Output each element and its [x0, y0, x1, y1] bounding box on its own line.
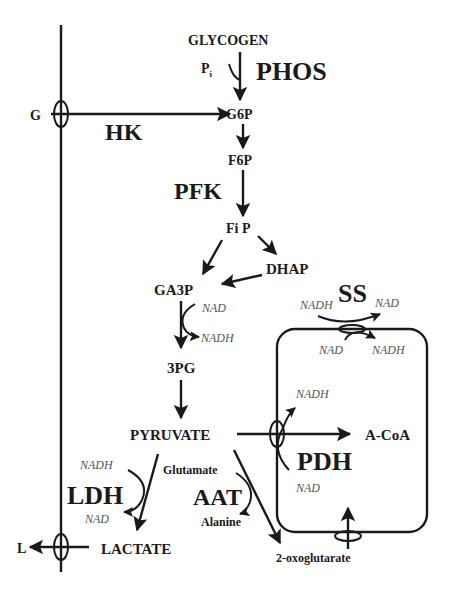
ldh-nadh-arc — [124, 470, 144, 512]
metabolite-g6p: G6P — [226, 107, 253, 122]
metabolite-fip: Fi P — [226, 221, 251, 236]
enzyme-aat: AAT — [193, 484, 242, 510]
cofactor-gapdh-nadh: NADH — [200, 331, 235, 345]
metabolite-2-oxoglutarate: 2-oxoglutarate — [276, 551, 351, 565]
gapdh-nad-arc — [182, 304, 199, 337]
metabolic-pathway-diagram: G HK GLYCOGEN Pi PHOS G6P F6P PFK Fi P D… — [0, 0, 450, 598]
oxoglutarate-transporter-icon — [335, 508, 361, 549]
cofactor-ss-top-nadh: NADH — [299, 298, 334, 312]
metabolite-pi: Pi — [201, 61, 213, 79]
metabolite-alanine: Alanine — [201, 515, 242, 529]
enzyme-phos: PHOS — [256, 57, 327, 86]
enzyme-ss: SS — [338, 279, 367, 308]
metabolite-acoa: A-CoA — [365, 427, 410, 443]
dhap-to-ga3p-arrow — [222, 275, 262, 284]
ldh-arrow — [137, 454, 158, 530]
metabolite-3pg: 3PG — [167, 360, 196, 376]
metabolite-pyruvate: PYRUVATE — [130, 427, 210, 443]
lactate-transporter-icon — [30, 534, 89, 560]
fip-to-dhap-arrow — [258, 236, 276, 254]
enzyme-ldh: LDH — [67, 481, 123, 510]
pdh-nad-arc — [278, 408, 295, 470]
metabolite-ga3p: GA3P — [154, 282, 193, 298]
pi-input-arc — [229, 64, 240, 80]
fip-to-ga3p-arrow — [203, 240, 222, 274]
cofactor-ldh-nad: NAD — [84, 512, 109, 526]
enzyme-pdh: PDH — [297, 447, 352, 476]
cofactor-pdh-nadh: NADH — [295, 387, 330, 401]
enzyme-hk: HK — [105, 119, 143, 145]
shuttle-transporter-icon — [318, 314, 380, 340]
metabolite-lactate: LACTATE — [101, 541, 171, 557]
metabolite-dhap: DHAP — [266, 261, 309, 277]
metabolite-l-ext: L — [17, 541, 26, 556]
cofactor-gapdh-nad: NAD — [201, 301, 226, 315]
cofactor-pdh-nad: NAD — [295, 481, 320, 495]
metabolite-glycogen: GLYCOGEN — [188, 33, 268, 48]
enzyme-pfk: PFK — [174, 178, 222, 204]
cofactor-ldh-nadh: NADH — [79, 458, 114, 472]
cofactor-ss-bot-nadh: NADH — [371, 343, 406, 357]
cofactor-ss-top-nad: NAD — [374, 296, 399, 310]
metabolite-g-ext: G — [30, 108, 41, 123]
metabolite-glutamate: Glutamate — [163, 463, 218, 477]
metabolite-f6p: F6P — [228, 153, 253, 168]
cofactor-ss-bot-nad: NAD — [318, 343, 343, 357]
